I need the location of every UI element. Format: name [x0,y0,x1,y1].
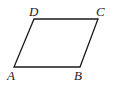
label-b: B [74,68,82,83]
label-a: A [6,68,15,83]
label-c: C [96,4,105,19]
label-d: D [28,4,39,19]
parallelogram-diagram: D C A B [0,0,113,90]
parallelogram-abcd [14,19,98,67]
